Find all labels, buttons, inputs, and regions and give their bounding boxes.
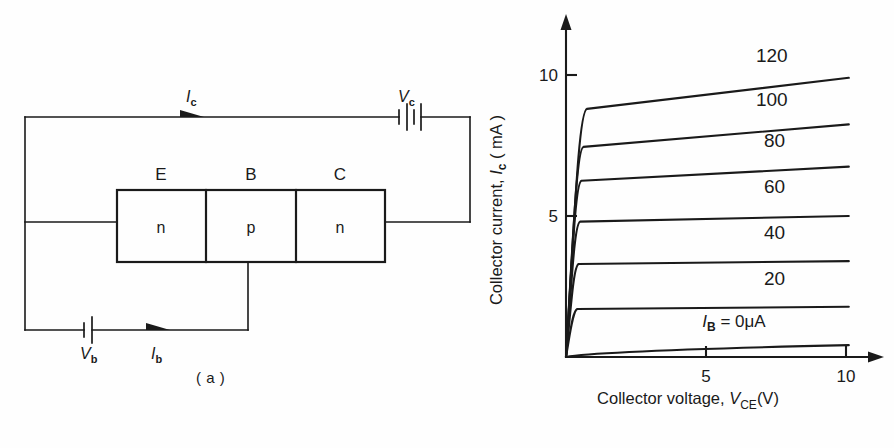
- annotation-ib-zero: IB = 0μA: [702, 312, 766, 334]
- figure-root: Ic Vc Vb Ib E B C n p n ( a ) 510510 120…: [0, 0, 894, 448]
- caption-a: ( a ): [196, 369, 225, 386]
- x-tick-label: 5: [701, 367, 710, 386]
- label-ic: Ic: [186, 88, 197, 108]
- arrow-ic-icon: [180, 110, 204, 117]
- characteristic-curve: [566, 216, 849, 357]
- x-axis-arrow-icon: [868, 352, 884, 363]
- terminal-letter-b: B: [245, 165, 256, 184]
- arrow-ib-icon: [146, 323, 170, 330]
- circuit-diagram-panel: Ic Vc Vb Ib E B C n p n ( a ): [0, 0, 500, 448]
- chart-curves: [566, 78, 849, 357]
- characteristic-curve: [566, 345, 849, 357]
- y-axis-title: Collector current, Ic ( mA ): [487, 115, 509, 305]
- output-characteristics-panel: 510510 12010080604020IB = 0μA Collector …: [470, 0, 894, 448]
- region-type-base: p: [247, 219, 256, 236]
- region-type-collector: n: [336, 219, 345, 236]
- characteristics-chart-svg: 510510 12010080604020IB = 0μA Collector …: [470, 0, 894, 448]
- circuit-diagram-svg: Ic Vc Vb Ib E B C n p n: [0, 0, 500, 448]
- curve-label-100: 100: [756, 89, 788, 110]
- battery-vb-icon: [84, 317, 92, 343]
- y-tick-label: 5: [549, 207, 558, 226]
- curve-label-80: 80: [764, 130, 785, 151]
- label-ib: Ib: [151, 345, 162, 365]
- y-tick-label: 10: [539, 66, 558, 85]
- terminal-letter-e: E: [155, 165, 166, 184]
- terminal-letter-c: C: [334, 165, 346, 184]
- arrowheads: [146, 110, 204, 330]
- curve-label-40: 40: [764, 222, 785, 243]
- label-vb: Vb: [80, 345, 98, 365]
- curve-label-120: 120: [756, 45, 788, 66]
- curve-label-60: 60: [764, 176, 785, 197]
- chart-curve-labels: 12010080604020IB = 0μA: [702, 45, 787, 334]
- x-axis-title: Collector voltage, VCE(V): [597, 389, 779, 412]
- y-axis-arrow-icon: [561, 14, 572, 30]
- x-tick-label: 10: [837, 367, 856, 386]
- curve-label-20: 20: [764, 268, 785, 289]
- region-type-emitter: n: [157, 219, 166, 236]
